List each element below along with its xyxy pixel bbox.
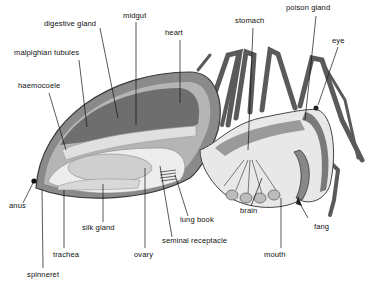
label-anus: anus	[9, 202, 26, 210]
label-mouth: mouth	[264, 251, 286, 259]
label-malpighian-tubules: malpighian tubules	[14, 49, 79, 57]
label-heart: heart	[165, 29, 183, 37]
label-stomach: stomach	[235, 17, 264, 25]
label-brain: brain	[240, 207, 257, 215]
label-poison-gland: poison gland	[286, 4, 330, 12]
label-silk-gland: silk gland	[82, 224, 115, 232]
label-spinneret: spinneret	[27, 271, 59, 279]
label-seminal-receptacle: seminal receptacle	[162, 237, 227, 245]
label-fang: fang	[314, 223, 329, 231]
label-lung-book: lung book	[180, 216, 214, 224]
spider-anatomy-diagram: digestive gland midgut heart malpighian …	[0, 0, 371, 285]
label-haemocoele: haemocoele	[18, 82, 60, 90]
eye-mark	[314, 106, 319, 111]
label-ovary: ovary	[134, 251, 153, 259]
label-midgut: midgut	[123, 12, 146, 20]
label-eye: eye	[332, 37, 345, 45]
anus-mark	[31, 178, 36, 183]
label-digestive-gland: digestive gland	[44, 20, 96, 28]
label-trachea: trachea	[53, 251, 79, 259]
